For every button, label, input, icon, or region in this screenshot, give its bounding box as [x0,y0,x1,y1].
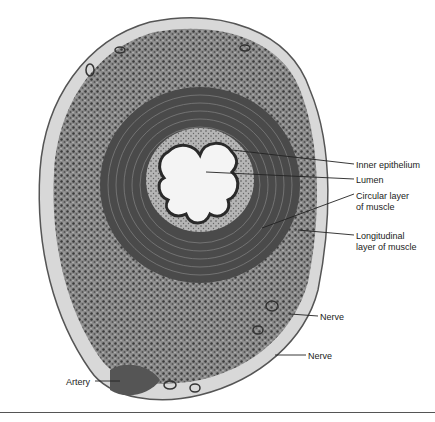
label-inner-epithelium: Inner epithelium [356,160,420,170]
label-circular-muscle: Circular layer [356,191,409,201]
label-artery: Artery [66,377,90,387]
micrograph-figure: Inner epithelium Lumen Circular layer of… [0,0,435,422]
label-nerve-2: Nerve [308,351,332,361]
label-longitudinal-muscle-2: layer of muscle [356,242,417,252]
divider-rule [0,412,435,413]
label-lumen: Lumen [356,175,384,185]
label-circular-muscle-2: of muscle [356,202,395,212]
label-nerve-1: Nerve [320,312,344,322]
label-longitudinal-muscle: Longitudinal [356,231,405,241]
